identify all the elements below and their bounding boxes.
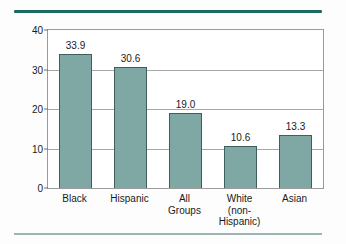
bar-slot: 13.3 <box>279 30 312 188</box>
figure-bar-chart-poverty-rate: Poverty rate 010203040 33.930.619.010.61… <box>0 0 346 244</box>
bar <box>279 135 312 188</box>
bar-slot: 10.6 <box>224 30 257 188</box>
x-tick-label: Asian <box>267 193 322 205</box>
x-tick-label: Black <box>47 193 102 205</box>
x-tick-label: AllGroups <box>157 193 212 216</box>
bar-value-label: 10.6 <box>224 132 257 143</box>
bar <box>169 113 202 188</box>
y-tick-label: 10 <box>32 143 43 154</box>
bar-slot: 33.9 <box>59 30 92 188</box>
plot-area: Poverty rate 010203040 33.930.619.010.61… <box>47 29 324 189</box>
y-tick-label: 20 <box>32 104 43 115</box>
bar-value-label: 13.3 <box>279 121 312 132</box>
top-rule-decoration <box>14 10 322 13</box>
y-tick-label: 0 <box>37 183 43 194</box>
bar-slot: 30.6 <box>114 30 147 188</box>
y-tick-label: 40 <box>32 25 43 36</box>
y-tick-label: 30 <box>32 64 43 75</box>
bar-value-label: 30.6 <box>114 53 147 64</box>
bar <box>224 146 257 188</box>
bar-value-label: 33.9 <box>59 40 92 51</box>
x-tick-label: White(non-Hispanic) <box>212 193 267 228</box>
bar-slot: 19.0 <box>169 30 202 188</box>
bar <box>59 54 92 188</box>
bar <box>114 67 147 188</box>
bar-value-label: 19.0 <box>169 99 202 110</box>
x-tick-label: Hispanic <box>102 193 157 205</box>
bar-series: 33.930.619.010.613.3 <box>48 30 323 188</box>
bottom-rule-decoration <box>14 233 322 235</box>
